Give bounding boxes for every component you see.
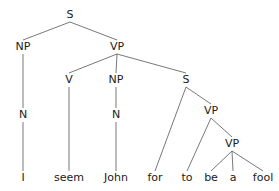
leaf-word: a (230, 171, 237, 184)
tree-nodes: SNPVPNVNPSNVPVPIseemJohnfortobeafool (16, 8, 274, 184)
tree-node-label: V (65, 73, 73, 86)
tree-edge (232, 151, 233, 171)
tree-node-label: VP (110, 40, 125, 53)
leaf-word: be (204, 171, 218, 184)
leaf-word: to (181, 171, 192, 184)
tree-node-label: VP (225, 137, 240, 150)
tree-node-label: S (67, 8, 74, 21)
tree-node-label: NP (109, 73, 124, 86)
tree-edge (211, 118, 232, 137)
tree-node-label: N (112, 108, 120, 121)
tree-edge (69, 54, 117, 73)
tree-edge (187, 118, 211, 171)
leaf-word: I (21, 171, 24, 184)
tree-edge (211, 151, 232, 171)
tree-node-label: N (19, 108, 27, 121)
tree-edge (70, 22, 117, 40)
leaf-word: John (103, 171, 128, 184)
tree-node-label: NP (16, 40, 31, 53)
leaf-word: fool (253, 171, 273, 184)
tree-edge (232, 151, 263, 171)
tree-node-label: S (183, 73, 190, 86)
tree-edge (155, 87, 186, 171)
leaf-word: seem (54, 171, 84, 184)
syntax-tree: SNPVPNVNPSNVPVPIseemJohnfortobeafool (0, 0, 279, 191)
tree-edge (117, 54, 186, 73)
tree-edge (23, 22, 70, 40)
tree-node-label: VP (204, 104, 219, 117)
leaf-word: for (147, 171, 163, 184)
tree-edge (116, 54, 117, 73)
tree-edge (186, 87, 211, 104)
